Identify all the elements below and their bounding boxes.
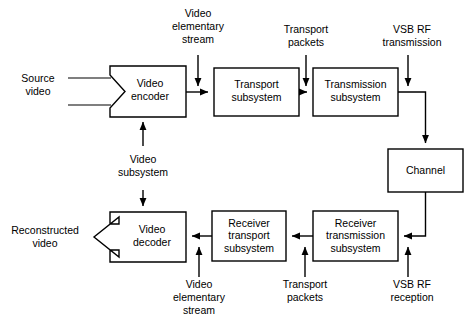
block-video-decoder-label-line1: Video: [139, 223, 166, 235]
svg-text:elementary: elementary: [172, 20, 225, 32]
label-video-elementary-stream-bottom: Video elementary stream: [173, 278, 226, 316]
block-video-decoder[interactable]: Video decoder: [94, 212, 186, 262]
svg-text:packets: packets: [288, 36, 324, 48]
svg-text:subsystem: subsystem: [118, 166, 168, 178]
block-receiver-transmission-subsystem-label-line3: subsystem: [330, 242, 380, 254]
label-vsb-rf-transmission: VSB RF transmission: [383, 23, 442, 48]
block-video-decoder-label-line2: decoder: [133, 236, 171, 248]
block-transmission-subsystem-label-line1: Transmission: [324, 78, 386, 90]
svg-text:Video: Video: [130, 153, 157, 165]
label-source-video: Source video: [21, 72, 54, 97]
block-video-encoder-label-line1: Video: [137, 77, 164, 89]
svg-text:Video: Video: [186, 278, 213, 290]
svg-text:Source: Source: [21, 72, 54, 84]
svg-text:Transport: Transport: [284, 23, 329, 35]
block-receiver-transport-subsystem-label-line2: transport: [228, 229, 270, 241]
svg-text:VSB RF: VSB RF: [393, 23, 431, 35]
connector-transmission-to-channel: [398, 92, 426, 143]
diagram-canvas: Video encoder Transport subsystem Transm…: [0, 0, 471, 325]
svg-text:Transport: Transport: [283, 278, 328, 290]
label-video-elementary-stream-top: Video elementary stream: [172, 7, 225, 45]
block-video-encoder[interactable]: Video encoder: [110, 66, 186, 117]
block-transport-subsystem-label-line2: subsystem: [231, 91, 281, 103]
svg-text:stream: stream: [183, 304, 215, 316]
label-transport-packets-bottom: Transport packets: [283, 278, 328, 303]
svg-text:stream: stream: [182, 33, 214, 45]
block-channel-label: Channel: [406, 164, 445, 176]
svg-text:elementary: elementary: [173, 291, 226, 303]
block-receiver-transmission-subsystem-label-line2: transmission: [326, 229, 385, 241]
block-receiver-transport-subsystem-label-line3: subsystem: [224, 242, 274, 254]
connector-channel-to-receiver-transmission: [404, 192, 426, 236]
svg-text:Video: Video: [185, 7, 212, 19]
svg-text:transmission: transmission: [383, 36, 442, 48]
svg-text:Reconstructed: Reconstructed: [11, 224, 79, 236]
label-transport-packets-top: Transport packets: [284, 23, 329, 48]
svg-text:VSB RF: VSB RF: [393, 278, 431, 290]
block-receiver-transport-subsystem[interactable]: Receiver transport subsystem: [212, 211, 286, 261]
svg-text:packets: packets: [287, 291, 323, 303]
block-transport-subsystem[interactable]: Transport subsystem: [214, 68, 299, 116]
block-receiver-transmission-subsystem[interactable]: Receiver transmission subsystem: [313, 211, 398, 261]
label-video-subsystem: Video subsystem: [118, 153, 168, 178]
block-transmission-subsystem[interactable]: Transmission subsystem: [313, 68, 398, 116]
svg-text:reception: reception: [390, 291, 433, 303]
block-receiver-transport-subsystem-label-line1: Receiver: [228, 217, 270, 229]
label-vsb-rf-reception: VSB RF reception: [390, 278, 433, 303]
label-reconstructed-video: Reconstructed video: [11, 224, 79, 249]
block-receiver-transmission-subsystem-label-line1: Receiver: [335, 217, 377, 229]
block-channel[interactable]: Channel: [388, 149, 463, 192]
block-transmission-subsystem-label-line2: subsystem: [330, 91, 380, 103]
svg-text:video: video: [25, 85, 50, 97]
block-video-encoder-label-line2: encoder: [131, 90, 169, 102]
svg-text:video: video: [32, 237, 57, 249]
block-transport-subsystem-label-line1: Transport: [234, 78, 279, 90]
block-diagram: Video encoder Transport subsystem Transm…: [0, 0, 471, 325]
